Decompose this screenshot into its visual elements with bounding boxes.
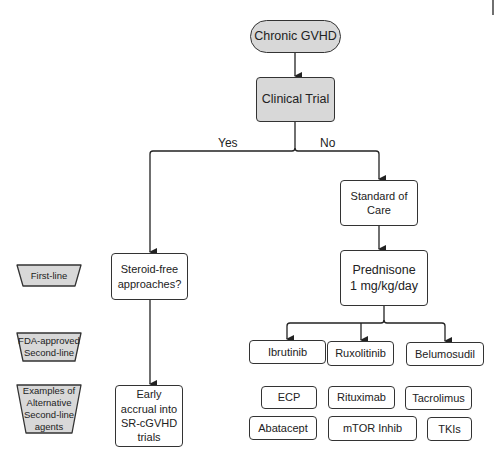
standard-of-care-label: Standard of Care — [347, 189, 411, 218]
prednisone-dose: 1 mg/kg/day — [350, 278, 418, 294]
steroid-free-label: Steroid-free approaches? — [116, 262, 183, 291]
clinical-trial-node: Clinical Trial — [256, 77, 335, 122]
agent-label: TKIs — [438, 422, 461, 436]
agent-rituximab: Rituximab — [328, 386, 395, 409]
agent-label: ECP — [278, 390, 301, 404]
agent-label: mTOR Inhib — [343, 421, 402, 435]
early-accrual-label: Early accrual into SR-cGVHD trials — [120, 387, 178, 444]
agent-ecp: ECP — [261, 386, 317, 409]
agent-label: Abatacept — [258, 421, 308, 435]
prednisone-node: Prednisone 1 mg/kg/day — [340, 250, 428, 306]
no-label: No — [320, 136, 335, 150]
agent-belumosudil: Belumosudil — [406, 342, 484, 366]
chronic-gvhd-label: Chronic GVHD — [254, 28, 337, 44]
agent-label: Belumosudil — [415, 347, 475, 361]
agent-label: Rituximab — [337, 390, 386, 404]
agent-tacrolimus: Tacrolimus — [405, 386, 472, 410]
agent-abatacept: Abatacept — [249, 416, 317, 440]
agent-label: Tacrolimus — [412, 391, 465, 405]
chronic-gvhd-node: Chronic GVHD — [250, 20, 341, 53]
agent-label: Ruxolitinib — [335, 346, 386, 360]
agent-mtor-inhib: mTOR Inhib — [328, 416, 417, 441]
prednisone-label: Prednisone — [352, 262, 415, 278]
steroid-free-node: Steroid-free approaches? — [111, 253, 188, 300]
agent-ibrutinib: Ibrutinib — [249, 340, 326, 364]
yes-label: Yes — [218, 136, 238, 150]
agent-label: Ibrutinib — [268, 345, 307, 359]
legend-first-line-label: First-line — [31, 270, 67, 282]
agent-ruxolitinib: Ruxolitinib — [327, 341, 394, 366]
legend-examples: Examples of Alternative Second-line agen… — [16, 384, 82, 434]
agent-tkis: TKIs — [427, 417, 472, 441]
clinical-trial-label: Clinical Trial — [262, 91, 329, 107]
early-accrual-node: Early accrual into SR-cGVHD trials — [115, 385, 183, 447]
legend-examples-label: Examples of Alternative Second-line agen… — [16, 385, 82, 433]
legend-first-line: First-line — [16, 264, 82, 287]
standard-of-care-node: Standard of Care — [340, 180, 418, 226]
legend-fda-approved-label: FDA-approved Second-line — [16, 335, 82, 359]
legend-fda-approved: FDA-approved Second-line — [16, 332, 82, 362]
